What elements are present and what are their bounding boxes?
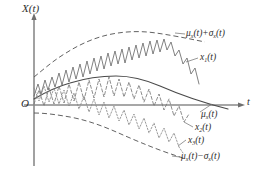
leader-line-x2 [184,122,193,127]
horizontal-axis-label: t [247,97,250,107]
upper-envelope-curve [34,32,205,77]
x3-arg: (t) [195,135,204,145]
lower-envelope-sigma-arg: (t) [211,151,220,161]
mean-curve-label: μx(t) [201,110,217,120]
figure-canvas [0,0,257,170]
vertical-axis-label: X(t) [22,3,39,14]
sample-path-x3-label: x3(t) [188,136,204,146]
x3-subscript: 3 [192,140,195,146]
upper-envelope-sigma-arg: (t) [216,28,225,38]
upper-envelope-label: μx(t)+σx(t) [186,29,225,39]
lower-envelope-curve [34,113,186,159]
lower-envelope-sigma-subscript: x [208,156,211,162]
mean-subscript: x [206,114,209,120]
upper-envelope-sigma-subscript: x [213,33,216,39]
upper-envelope-mu-subscript: x [191,33,194,39]
x1-subscript: 1 [204,57,207,63]
vertical-axis-symbol: X [22,2,29,14]
lower-envelope-mu-subscript: x [186,156,189,162]
x1-arg: (t) [207,52,216,62]
lower-envelope-mu-arg: (t) [188,151,197,161]
origin-symbol: O [21,97,29,109]
leader-line-upper-envelope [175,33,185,34]
sample-path-x1-label: x1(t) [200,53,216,63]
origin-label: O [21,98,29,109]
x2-arg: (t) [202,122,211,132]
horizontal-axis-arrow-icon [238,102,245,107]
lower-envelope-label: μx(t)−σx(t) [181,152,220,162]
sample-path-x3 [34,86,183,153]
mean-arg: (t) [208,109,217,119]
horizontal-axis-symbol: t [247,96,250,107]
sample-path-x2-label: x2(t) [195,123,211,133]
upper-envelope-mu-arg: (t) [193,28,202,38]
vertical-axis-arrow-icon [31,13,36,20]
random-process-figure: X(t) O t μx(t)+σx(t) x1(t) μx(t) x2(t) x… [0,0,257,170]
leader-line-x3 [178,140,186,146]
x2-subscript: 2 [199,127,202,133]
vertical-axis-arg: (t) [29,2,39,14]
